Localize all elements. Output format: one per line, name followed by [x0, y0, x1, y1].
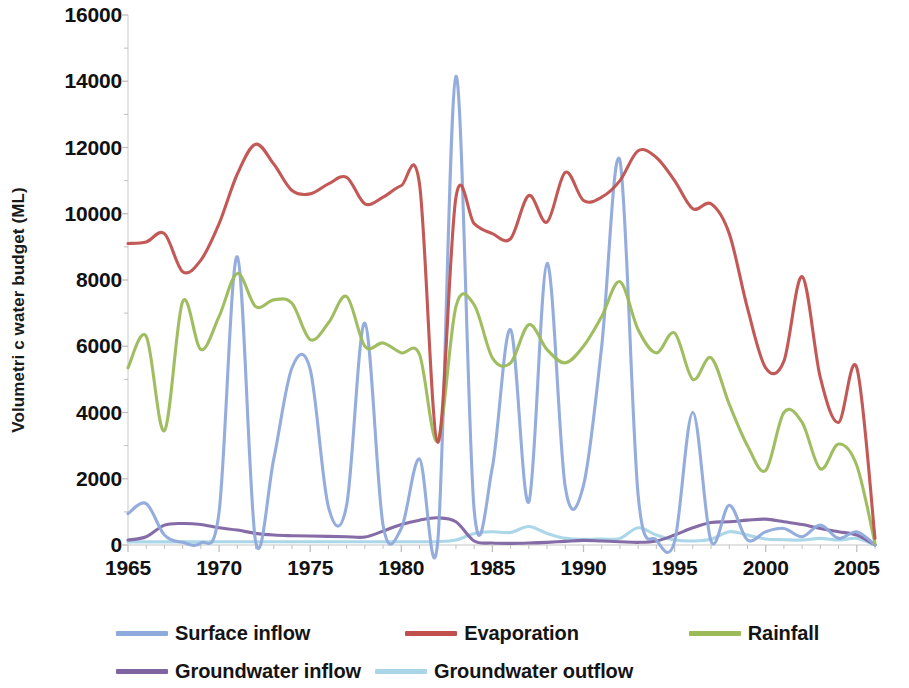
series-line-rainfall — [128, 273, 875, 543]
legend-label: Rainfall — [748, 622, 819, 645]
plot-area — [0, 0, 909, 688]
legend-label: Evaporation — [464, 622, 578, 645]
legend-swatch-icon — [375, 669, 427, 674]
legend-item-groundwater-inflow[interactable]: Groundwater inflow — [116, 660, 361, 683]
series-line-surface-inflow — [128, 76, 875, 558]
legend-label: Groundwater outflow — [434, 660, 633, 683]
chart-legend: Surface inflowEvaporationRainfall Ground… — [0, 612, 909, 688]
legend-item-rainfall[interactable]: Rainfall — [689, 622, 819, 645]
legend-swatch-icon — [116, 631, 168, 636]
legend-swatch-icon — [405, 631, 457, 636]
legend-swatch-icon — [116, 669, 168, 674]
series-line-evaporation — [128, 144, 875, 538]
legend-row-1: Surface inflowEvaporationRainfall — [116, 622, 819, 645]
legend-item-surface-inflow[interactable]: Surface inflow — [116, 622, 310, 645]
legend-label: Surface inflow — [175, 622, 310, 645]
legend-swatch-icon — [689, 631, 741, 636]
legend-item-evaporation[interactable]: Evaporation — [405, 622, 578, 645]
legend-item-groundwater-outflow[interactable]: Groundwater outflow — [375, 660, 633, 683]
legend-row-2: Groundwater inflowGroundwater outflow — [116, 660, 633, 683]
chart-figure: Volumetri c water budget (ML) 0200040006… — [0, 0, 909, 688]
legend-label: Groundwater inflow — [175, 660, 361, 683]
